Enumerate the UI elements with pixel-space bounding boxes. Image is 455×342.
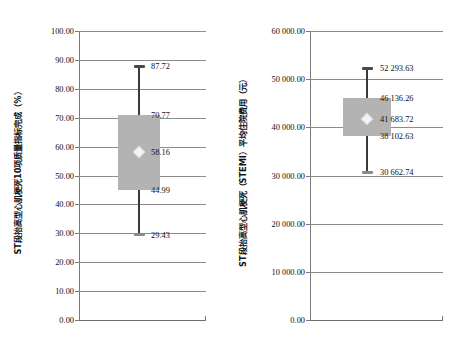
data-label-q3: 70.77 xyxy=(151,111,170,120)
y-axis-tick xyxy=(75,89,79,90)
y-axis-tick-label: 90.00 xyxy=(55,56,74,65)
gridline xyxy=(79,204,206,205)
gridline xyxy=(310,31,443,32)
data-label-q1: 38 102.63 xyxy=(380,132,414,141)
y-axis-tick xyxy=(306,224,310,225)
y-axis-tick-label: 40 000.00 xyxy=(272,123,306,132)
whisker-cap-max xyxy=(134,65,145,68)
y-axis-tick xyxy=(306,320,310,321)
y-axis-tick-label: 50 000.00 xyxy=(272,75,306,84)
y-axis-title-left: ST段抬高型心肌梗死10项质量指标完成（%） xyxy=(6,0,28,342)
y-axis-tick-label: 20 000.00 xyxy=(272,220,306,229)
y-axis-tick xyxy=(75,176,79,177)
data-label-q1: 44.99 xyxy=(151,185,170,194)
box-plot-chart-right: ST段抬高型心肌梗死（STEMI）平均住院费用（元） 60 000.0050 0… xyxy=(228,0,455,342)
whisker-cap-min xyxy=(362,171,373,174)
data-label-mean: 58.16 xyxy=(151,147,170,156)
gridline xyxy=(310,272,443,273)
y-axis-tick xyxy=(75,204,79,205)
gridline xyxy=(310,79,443,80)
gridline xyxy=(79,262,206,263)
plot-area-left: 100.0090.0080.0070.0060.0050.0040.0030.0… xyxy=(79,31,206,320)
axis-end-cap xyxy=(442,316,443,321)
plot-area-right: 60 000.0050 000.0040 000.0030 000.0020 0… xyxy=(310,31,443,320)
y-axis-tick xyxy=(75,31,79,32)
y-axis-tick-label: 30 000.00 xyxy=(272,172,306,181)
axis-end-cap xyxy=(205,316,206,321)
y-axis-tick xyxy=(75,118,79,119)
y-axis-tick-label: 20.00 xyxy=(55,258,74,267)
y-axis-tick-label: 80.00 xyxy=(55,85,74,94)
y-axis-tick-label: 60.00 xyxy=(55,143,74,152)
y-axis-tick-label: 10 000.00 xyxy=(272,268,306,277)
y-axis-tick xyxy=(306,272,310,273)
y-axis-tick-label: 40.00 xyxy=(55,200,74,209)
chart-pair-container: ST段抬高型心肌梗死10项质量指标完成（%） 100.0090.0080.007… xyxy=(0,0,455,342)
y-axis-tick-label: 30.00 xyxy=(55,229,74,238)
box-plot-chart-left: ST段抬高型心肌梗死10项质量指标完成（%） 100.0090.0080.007… xyxy=(0,0,228,342)
y-axis-tick xyxy=(306,176,310,177)
gridline xyxy=(79,31,206,32)
whisker-cap-max xyxy=(362,67,373,70)
data-label-mean: 41 683.72 xyxy=(380,115,414,124)
y-axis-tick xyxy=(75,147,79,148)
gridline xyxy=(79,291,206,292)
y-axis-tick-label: 70.00 xyxy=(55,114,74,123)
gridline xyxy=(79,320,206,321)
data-label-min: 30 662.74 xyxy=(380,168,414,177)
gridline xyxy=(79,89,206,90)
gridline xyxy=(310,320,443,321)
y-axis-title-right: ST段抬高型心肌梗死（STEMI）平均住院费用（元） xyxy=(231,0,253,342)
y-axis-tick xyxy=(75,233,79,234)
y-axis-tick xyxy=(306,79,310,80)
y-axis-tick-label: 60 000.00 xyxy=(272,27,306,36)
gridline xyxy=(79,60,206,61)
y-axis-tick-label: 50.00 xyxy=(55,172,74,181)
y-axis-tick-label: 0.00 xyxy=(59,316,74,325)
data-label-q3: 46 136.26 xyxy=(380,93,414,102)
data-label-min: 29.43 xyxy=(151,230,170,239)
y-axis-tick-label: 0.00 xyxy=(290,316,305,325)
y-axis-tick-label: 100.00 xyxy=(51,27,74,36)
y-axis-tick-label: 10.00 xyxy=(55,287,74,296)
gridline xyxy=(310,176,443,177)
gridline xyxy=(310,224,443,225)
whisker-cap-min xyxy=(134,233,145,236)
data-label-max: 52 293.63 xyxy=(380,64,414,73)
data-label-max: 87.72 xyxy=(151,62,170,71)
y-axis-tick xyxy=(75,60,79,61)
y-axis-tick xyxy=(306,127,310,128)
y-axis-tick xyxy=(75,320,79,321)
y-axis-tick xyxy=(306,31,310,32)
y-axis-tick xyxy=(75,291,79,292)
y-axis-tick xyxy=(75,262,79,263)
